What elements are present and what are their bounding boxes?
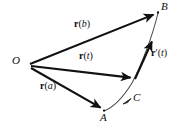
vector-label-r-of-b: r(b)	[74, 19, 90, 29]
curve-direction-arrowhead	[123, 99, 131, 105]
trajectory-curve	[104, 13, 158, 111]
diagram-canvas	[0, 0, 185, 125]
vector-label-r-of-t-close: )	[90, 50, 93, 61]
point-label-C: C	[133, 92, 140, 103]
vector-label-r-prime-of-t: r′(t)	[151, 48, 167, 58]
point-dot-B	[157, 11, 159, 13]
vector-label-r-of-b-close: )	[87, 18, 90, 29]
vector-label-r-of-t: r(t)	[79, 51, 93, 61]
point-label-A: A	[100, 112, 107, 123]
vector-label-r-of-a: r(a)	[40, 81, 56, 91]
vector-label-r-of-a-close: )	[53, 80, 56, 91]
vector-r-prime-of-t	[135, 42, 152, 80]
point-label-B: B	[161, 1, 168, 12]
vector-label-r-prime-of-t-close: )	[164, 47, 167, 58]
vector-diagram-figure: O B A C r(b) r(t) r(a) r′(t)	[0, 0, 185, 125]
point-label-O: O	[12, 55, 20, 66]
